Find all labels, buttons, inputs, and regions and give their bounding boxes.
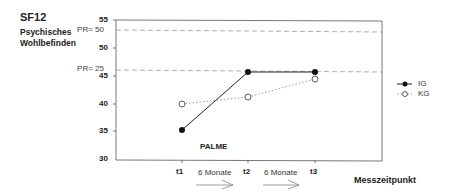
x-tick-t2: t2 bbox=[243, 167, 250, 176]
palme-annotation: PALME bbox=[200, 142, 227, 151]
legend-kg-marker bbox=[403, 92, 408, 97]
interval-label-1: 6 Monate bbox=[198, 168, 231, 177]
interval-label-2: 6 Monate bbox=[264, 168, 297, 177]
kg-point-t3 bbox=[312, 76, 318, 82]
series-ig-line bbox=[182, 72, 315, 130]
chart-plot bbox=[0, 0, 451, 191]
x-tick-t3: t3 bbox=[310, 167, 317, 176]
legend-kg-label: KG bbox=[418, 89, 430, 98]
kg-point-t1 bbox=[179, 101, 185, 107]
ig-point-t1 bbox=[179, 127, 185, 133]
x-tick-t1: t1 bbox=[176, 167, 183, 176]
kg-point-t2 bbox=[245, 94, 251, 100]
ig-point-t3 bbox=[312, 69, 318, 75]
legend-ig-marker bbox=[403, 82, 408, 87]
ig-point-t2 bbox=[245, 69, 251, 75]
arrow-icon bbox=[196, 180, 299, 189]
pr50-line bbox=[116, 30, 382, 32]
x-axis-label: Messzeitpunkt bbox=[354, 175, 416, 185]
legend-ig-label: IG bbox=[418, 79, 426, 88]
